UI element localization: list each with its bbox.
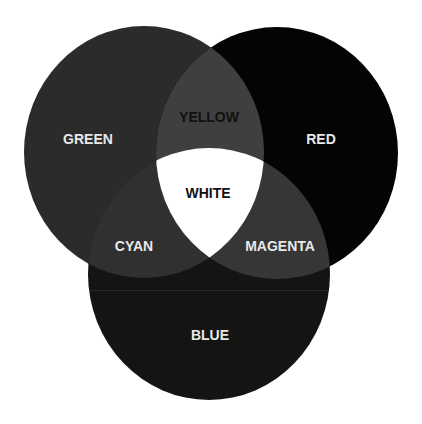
label-blue: BLUE	[191, 327, 229, 343]
label-white-group: WHITE	[185, 185, 230, 201]
venn-diagram: GREEN RED BLUE YELLOW CYAN MAGENTA WHITE	[0, 0, 422, 424]
label-green: GREEN	[63, 131, 113, 147]
label-green-group: GREEN	[63, 131, 113, 147]
label-yellow-group: YELLOW	[179, 109, 240, 125]
label-white: WHITE	[185, 185, 230, 201]
label-cyan: CYAN	[115, 238, 153, 254]
label-red: RED	[306, 131, 336, 147]
label-magenta: MAGENTA	[245, 238, 315, 254]
label-yellow: YELLOW	[179, 109, 240, 125]
label-magenta-group: MAGENTA	[245, 238, 315, 254]
venn-diagram-canvas: GREEN RED BLUE YELLOW CYAN MAGENTA WHITE	[0, 0, 422, 424]
label-cyan-group: CYAN	[115, 238, 153, 254]
label-red-group: RED	[306, 131, 336, 147]
label-blue-group: BLUE	[191, 327, 229, 343]
